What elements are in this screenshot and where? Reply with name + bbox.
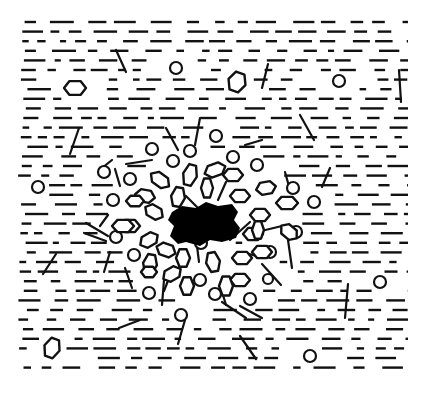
- ring-particle: [32, 181, 44, 193]
- ring-particle: [146, 143, 158, 155]
- ring-particle: [170, 62, 182, 74]
- ring-particle: [194, 274, 206, 286]
- ring-particle: [184, 145, 196, 157]
- hexagonal-grain: [232, 252, 252, 264]
- hexagonal-grain: [252, 221, 264, 238]
- hexagonal-grain: [180, 277, 194, 294]
- ring-particle: [128, 249, 140, 261]
- ring-particle: [244, 293, 256, 305]
- ring-particle: [263, 274, 273, 284]
- ring-particle: [124, 173, 136, 185]
- ring-particle: [210, 130, 222, 142]
- hexagonal-grain: [252, 246, 272, 258]
- hexagonal-grain: [64, 81, 86, 95]
- hexagonal-grain: [126, 196, 144, 206]
- ring-particle: [333, 75, 345, 87]
- ring-particle: [287, 182, 299, 194]
- ring-particle: [107, 194, 119, 206]
- ring-particle: [167, 155, 179, 167]
- hexagonal-grain: [276, 197, 298, 209]
- hexagonal-grain: [112, 220, 134, 232]
- hexagonal-grain: [176, 249, 190, 266]
- black-core-inclusion: [168, 202, 240, 246]
- background: [0, 0, 427, 400]
- hexagonal-grain: [201, 179, 213, 198]
- ring-particle: [304, 350, 316, 362]
- ring-particle: [374, 276, 386, 288]
- hexagonal-grain: [230, 190, 250, 202]
- hexagonal-grain: [141, 267, 157, 277]
- hexagonal-grain: [250, 209, 270, 221]
- ring-particle: [143, 287, 155, 299]
- ring-particle: [308, 196, 320, 208]
- ring-particle: [175, 309, 187, 321]
- core-inclusion: [168, 202, 240, 246]
- hexagonal-grain: [223, 169, 243, 181]
- ring-particle: [227, 151, 239, 163]
- defect-cluster-diagram: [0, 0, 427, 400]
- hexagonal-grain: [219, 277, 233, 296]
- ring-particle: [251, 159, 263, 171]
- ring-particle: [98, 166, 110, 178]
